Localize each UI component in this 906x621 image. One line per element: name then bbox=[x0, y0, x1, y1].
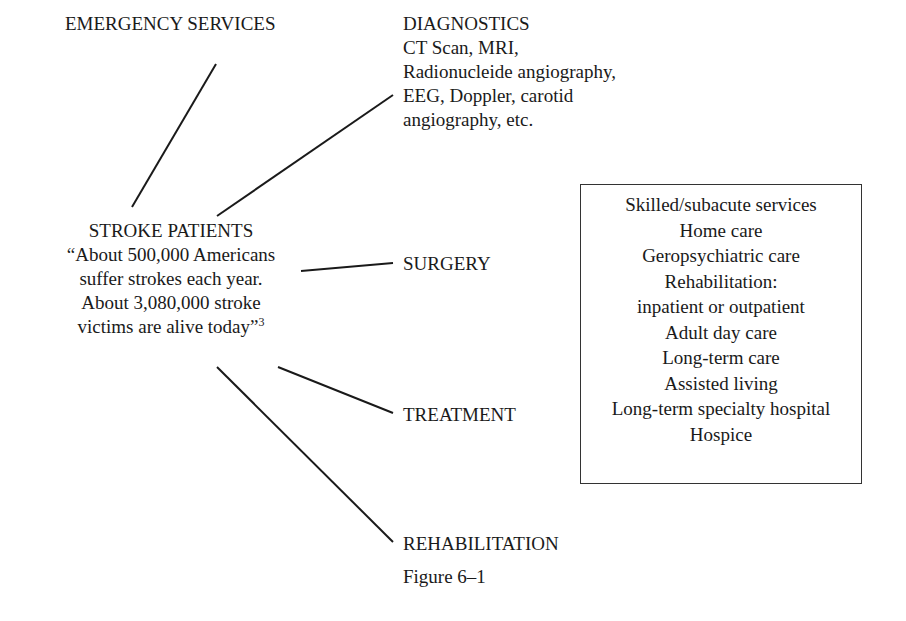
service-item: Hospice bbox=[581, 422, 861, 448]
service-item: Adult day care bbox=[581, 320, 861, 346]
diagnostics-line: EEG, Doppler, carotid bbox=[403, 84, 616, 108]
service-item: Home care bbox=[581, 218, 861, 244]
connector-emergency bbox=[132, 64, 216, 207]
footnote-reference: 3 bbox=[258, 315, 264, 329]
stroke-quote-text: victims are alive today” bbox=[78, 316, 259, 337]
diagnostics-line: CT Scan, MRI, bbox=[403, 36, 616, 60]
connector-surgery bbox=[301, 263, 393, 271]
stroke-quote-line: suffer strokes each year. bbox=[40, 267, 302, 291]
node-diagnostics: DIAGNOSTICS CT Scan, MRI, Radionucleide … bbox=[403, 12, 616, 132]
diagnostics-line: angiography, etc. bbox=[403, 108, 616, 132]
service-item: inpatient or outpatient bbox=[581, 294, 861, 320]
node-stroke-patients: STROKE PATIENTS “About 500,000 Americans… bbox=[40, 219, 302, 339]
service-item: Long-term specialty hospital bbox=[581, 396, 861, 422]
service-item: Geropsychiatric care bbox=[581, 243, 861, 269]
service-item: Assisted living bbox=[581, 371, 861, 397]
node-surgery: SURGERY bbox=[403, 252, 491, 276]
diagnostics-title: DIAGNOSTICS bbox=[403, 12, 616, 36]
stroke-quote-line: “About 500,000 Americans bbox=[40, 243, 302, 267]
diagnostics-line: Radionucleide angiography, bbox=[403, 60, 616, 84]
node-rehabilitation: REHABILITATION bbox=[403, 532, 559, 556]
service-item: Skilled/subacute services bbox=[581, 192, 861, 218]
service-item: Rehabilitation: bbox=[581, 269, 861, 295]
services-box: Skilled/subacute services Home care Gero… bbox=[580, 184, 862, 484]
service-item: Long-term care bbox=[581, 345, 861, 371]
stroke-patients-title: STROKE PATIENTS bbox=[40, 219, 302, 243]
node-emergency-services: EMERGENCY SERVICES bbox=[65, 12, 275, 36]
figure-caption: Figure 6–1 bbox=[403, 565, 486, 589]
stroke-quote-line-last: victims are alive today”3 bbox=[40, 315, 302, 339]
node-treatment: TREATMENT bbox=[403, 403, 516, 427]
stroke-quote-line: About 3,080,000 stroke bbox=[40, 291, 302, 315]
connector-treatment bbox=[278, 367, 393, 413]
connector-rehabilitation bbox=[217, 367, 393, 542]
connector-diagnostics bbox=[217, 95, 393, 216]
